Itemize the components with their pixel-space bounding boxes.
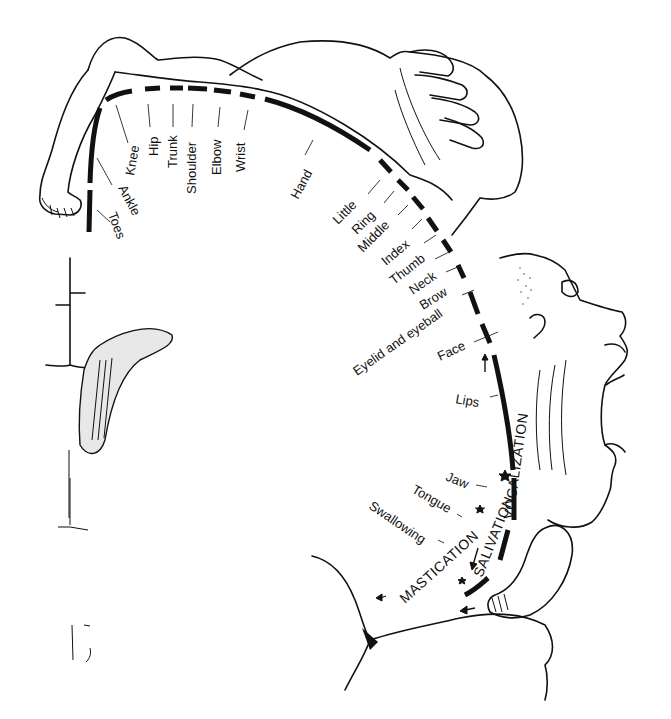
label-shoulder: Shoulder (184, 141, 199, 194)
label-hand: Hand (287, 167, 315, 201)
motor-homunculus-diagram: Toes Ankle Knee Hip Trunk Shoulder Elbow… (0, 0, 671, 719)
label-lips: Lips (454, 391, 481, 410)
star-marker-icon (458, 577, 466, 584)
label-knee: Knee (122, 144, 142, 177)
arm-drawing (230, 41, 522, 235)
star-marker-icon (476, 505, 485, 513)
label-wrist: Wrist (233, 142, 248, 172)
function-labels: VOCALIZATION SALIVATION MASTICATION (396, 412, 531, 607)
label-trunk: Trunk (165, 135, 180, 168)
label-toes: Toes (105, 210, 129, 241)
label-swallowing: Swallowing (366, 498, 428, 547)
label-hip: Hip (146, 136, 161, 156)
arrow-left-icon (376, 594, 386, 601)
label-tongue: Tongue (410, 482, 454, 516)
arrow-left-icon (460, 606, 475, 614)
arrow-up-icon (482, 354, 488, 372)
label-elbow: Elbow (209, 139, 224, 175)
scalp-stipple (517, 267, 532, 305)
cross-section-drawings (46, 258, 172, 662)
label-eyelid-and-eyeball: Eyelid and eyeball (350, 306, 445, 379)
arrows (376, 354, 511, 614)
leader-lines (97, 104, 498, 543)
leg-drawing (40, 37, 262, 218)
label-face: Face (435, 338, 468, 364)
label-jaw: Jaw (444, 469, 472, 492)
